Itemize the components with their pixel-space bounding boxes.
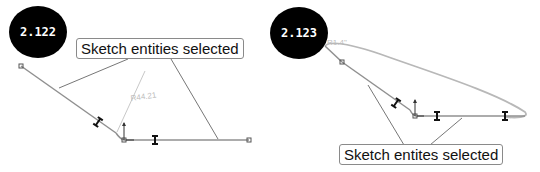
callout-label: Sketch entities selected: [76, 38, 244, 59]
radius-dimension[interactable]: R44.21: [130, 90, 157, 103]
radius-dimension[interactable]: R1.4": [327, 38, 347, 47]
figure-badge: 2.122: [9, 6, 67, 58]
sloped-line[interactable]: [342, 62, 410, 110]
ellipse-arc[interactable]: [325, 43, 526, 117]
sloped-line[interactable]: [21, 66, 116, 133]
figure-badge: 2.123: [270, 7, 328, 59]
figure-2-123-sketch: [325, 43, 526, 145]
callout-label: Sketch entites selected: [339, 144, 503, 165]
